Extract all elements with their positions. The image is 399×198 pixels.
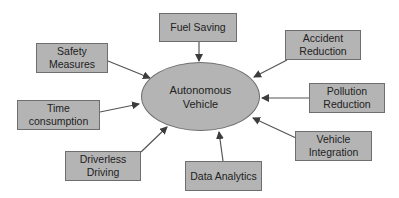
- edge-driverless: [141, 127, 167, 152]
- node-data-analytics: Data Analytics: [185, 161, 262, 191]
- center-node-label: Autonomous Vehicle: [170, 83, 232, 111]
- node-label: Pollution Reduction: [323, 85, 370, 111]
- edge-time: [100, 104, 139, 112]
- autonomous-vehicle-diagram: Autonomous Vehicle Safety Measures Fuel …: [0, 0, 399, 198]
- node-label: Vehicle Integration: [309, 133, 359, 159]
- edge-accident: [254, 60, 287, 77]
- node-fuel-saving: Fuel Saving: [159, 13, 237, 42]
- node-label: Safety Measures: [49, 45, 95, 71]
- edge-safety: [108, 61, 150, 78]
- node-driverless-driving: Driverless Driving: [65, 151, 141, 181]
- node-accident-reduction: Accident Reduction: [285, 30, 361, 60]
- node-vehicle-integration: Vehicle Integration: [295, 131, 372, 161]
- node-label: Accident Reduction: [299, 32, 346, 58]
- node-label: Driverless Driving: [80, 153, 127, 179]
- node-label: Fuel Saving: [170, 21, 225, 34]
- node-safety-measures: Safety Measures: [36, 43, 108, 73]
- edge-analytics: [219, 132, 223, 161]
- node-label: Time consumption: [29, 102, 89, 128]
- center-node-autonomous-vehicle: Autonomous Vehicle: [141, 62, 260, 131]
- edge-integration: [253, 118, 296, 138]
- node-label: Data Analytics: [190, 170, 257, 183]
- node-time-consumption: Time consumption: [17, 100, 100, 130]
- node-pollution-reduction: Pollution Reduction: [309, 83, 385, 113]
